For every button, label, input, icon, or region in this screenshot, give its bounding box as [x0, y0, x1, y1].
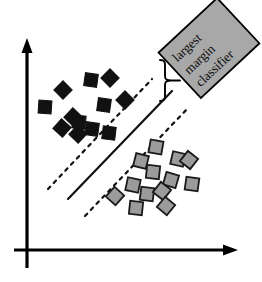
- class-a-markers-group: [38, 69, 134, 143]
- data-point-dark: [116, 91, 134, 109]
- data-point-light: [106, 187, 124, 205]
- data-point-light: [157, 197, 175, 215]
- data-point-light: [148, 139, 163, 154]
- data-point-light: [140, 187, 154, 201]
- data-point-light: [129, 201, 143, 215]
- largest-margin-classifier-callout: largest margin classifier: [159, 0, 260, 98]
- class-b-markers-group: [106, 139, 200, 215]
- data-point-dark: [102, 126, 116, 140]
- data-point-dark: [38, 100, 52, 114]
- figure-root: largest margin classifier: [0, 0, 262, 282]
- data-point-dark: [54, 81, 72, 99]
- x-axis-arrowhead: [223, 245, 238, 256]
- data-point-light: [185, 177, 200, 192]
- data-point-light: [125, 177, 140, 192]
- data-point-dark: [97, 98, 112, 113]
- y-axis-arrowhead: [22, 38, 33, 53]
- scatter-plot-svg: largest margin classifier: [0, 0, 262, 282]
- data-point-dark: [84, 73, 99, 88]
- data-point-light: [146, 165, 160, 179]
- data-point-dark: [101, 69, 119, 87]
